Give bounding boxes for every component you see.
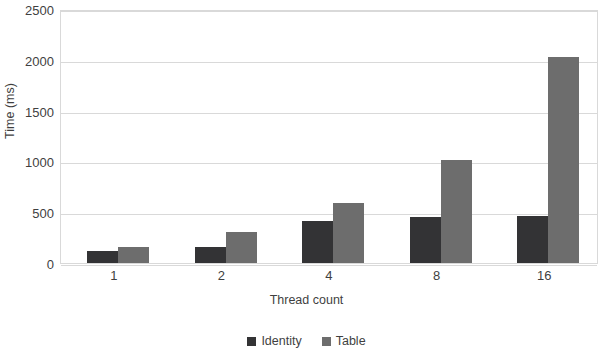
bar-identity-16 [517,216,548,263]
bar-series-container [61,11,597,263]
y-axis-tick-label: 0 [10,258,54,271]
plot-area [60,10,598,264]
x-axis-tick-label: 16 [490,268,598,283]
bar-group [384,11,492,263]
legend-swatch-icon [247,337,256,346]
x-axis-tick-label: 8 [383,268,491,283]
x-axis-tick-label: 2 [168,268,276,283]
y-axis-tick-label: 500 [10,207,54,220]
legend-item-identity[interactable]: Identity [247,334,301,348]
gridline [61,265,597,266]
bar-table-8 [441,160,472,263]
x-axis-tick-label: 1 [60,268,168,283]
legend-item-table[interactable]: Table [322,334,366,348]
legend-label: Identity [261,334,301,348]
x-axis-tick-labels: 124816 [60,268,598,290]
bar-table-1 [118,247,149,263]
bar-table-4 [333,203,364,263]
bar-table-16 [548,57,579,263]
x-axis-tick-label: 4 [275,268,383,283]
legend-swatch-icon [322,337,331,346]
bar-chart-figure: Time (ms) 05001000150020002500 124816 Th… [0,0,613,359]
bar-identity-8 [410,217,441,263]
bar-group [61,11,169,263]
legend-label: Table [336,334,366,348]
bar-identity-4 [302,221,333,263]
bar-group [491,11,599,263]
x-axis-title: Thread count [0,293,613,307]
y-axis-tick-label: 1000 [10,156,54,169]
y-axis-tick-label: 2500 [10,4,54,17]
bar-identity-1 [87,251,118,263]
bar-table-2 [226,232,257,263]
chart-legend: IdentityTable [0,334,613,348]
bar-group [169,11,277,263]
y-axis-tick-label: 1500 [10,106,54,119]
bar-identity-2 [195,247,226,263]
y-axis-tick-label: 2000 [10,55,54,68]
bar-group [276,11,384,263]
